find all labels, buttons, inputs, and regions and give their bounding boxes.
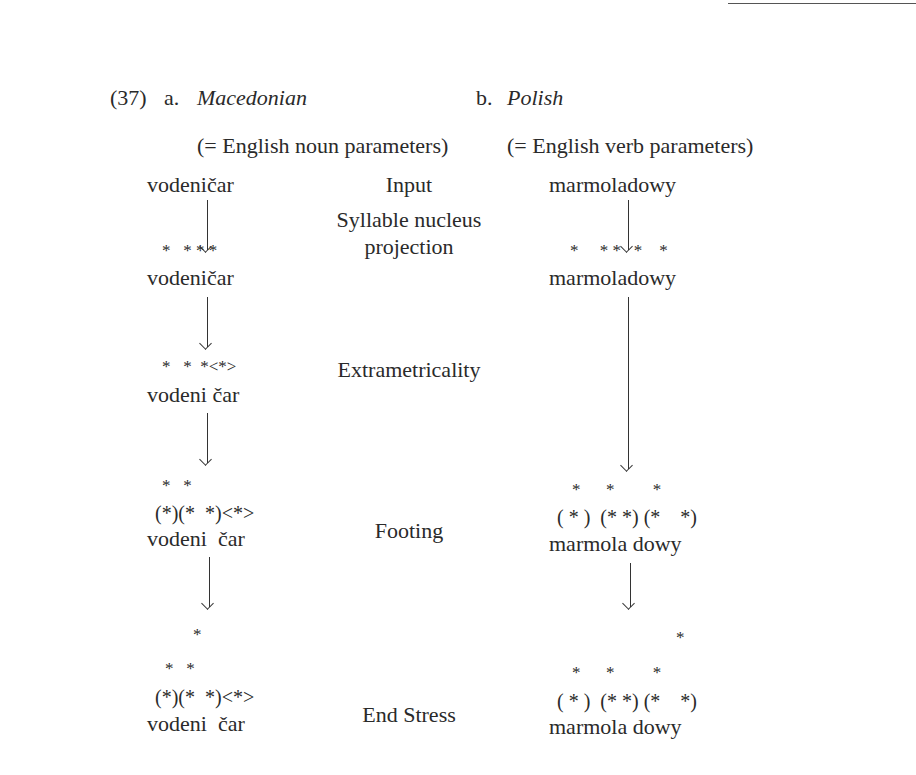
a-endstress-top-star: * [193,622,202,648]
b-input-word: marmoladowy [549,172,676,198]
arrow-down-icon [630,563,631,607]
step-syllable-line2: projection [364,234,453,260]
b-footing-top-stars: * * * [572,477,661,503]
example-number: (37) [110,85,147,111]
a-footing-top-stars: * * [162,473,192,499]
a-footing-grid: (*)(* *)<*> [155,500,254,526]
step-syllable-line1: Syllable nucleus [337,207,482,233]
step-end-stress: End Stress [362,702,456,728]
a-endstress-mid-stars: * * [165,656,195,682]
b-nucleus-word: marmoladowy [549,265,676,291]
step-extrametricality: Extrametricality [338,357,481,383]
panel-a-label: a. [164,85,179,111]
a-extrametrical-word: vodeni čar [147,382,239,408]
step-input: Input [386,172,432,198]
a-input-word: vodeničar [147,172,234,198]
a-nucleus-word: vodeničar [147,265,234,291]
b-endstress-grid: ( * ) (* *) (* *) [557,688,697,714]
a-extrametrical-stars: * * *<*> [162,354,236,380]
step-footing: Footing [375,518,443,544]
b-endstress-top-star: * [676,625,685,651]
b-endstress-word: marmola dowy [549,714,682,740]
panel-b-params: (= English verb parameters) [507,133,753,159]
arrow-down-icon [207,297,208,347]
panel-a-params: (= English noun parameters) [197,133,448,159]
b-nucleus-stars: * * * * * [570,238,668,264]
arrow-down-icon [209,557,210,607]
a-footing-word: vodeni čar [147,526,245,552]
b-footing-grid: ( * ) (* *) (* *) [557,504,697,530]
b-footing-word: marmola dowy [549,531,682,557]
b-endstress-mid-stars: * * * [572,660,661,686]
a-endstress-word: vodeni čar [147,711,245,737]
arrow-down-icon [207,413,208,463]
header-rule [728,3,916,4]
a-endstress-grid: (*)(* *)<*> [155,684,254,710]
panel-a-language: Macedonian [197,85,307,111]
panel-b-label: b. [476,85,493,111]
arrow-down-icon [628,297,629,469]
panel-b-language: Polish [507,85,563,111]
a-nucleus-stars: * * * * [162,238,217,264]
